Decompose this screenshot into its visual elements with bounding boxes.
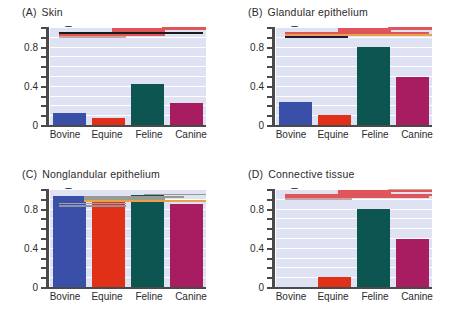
gridline [276, 228, 432, 229]
panel-a-title: (A)Skin [22, 6, 63, 18]
panel-d-title-text: Connective tissue [268, 168, 354, 180]
panel-b-plot-area: Malignant tumors (%) 00.40.8 BovineEquin… [276, 27, 432, 125]
panel-c-plot-area: Malignant tumors (%) 00.40.8 BovineEquin… [50, 189, 206, 287]
y-tick [41, 66, 47, 68]
panel-d-plot [276, 189, 432, 287]
bar-feline [357, 209, 390, 287]
bar-canine [170, 204, 203, 287]
panel-a: (A)Skin Malignant tumors (%) 00.40.8 Bov… [0, 0, 225, 162]
y-tick [267, 287, 273, 289]
annotation-line [59, 36, 127, 38]
panel-b: (B)Glandular epithelium Malignant tumors… [226, 0, 451, 162]
bar-equine [318, 115, 351, 125]
figure-four-panel-bar-charts: (A)Skin Malignant tumors (%) 00.40.8 Bov… [0, 0, 451, 324]
y-tick-label: 0 [258, 120, 264, 131]
y-tick [41, 105, 47, 107]
y-tick [267, 56, 273, 58]
panel-b-x-labels: BovineEquineFelineCanine [270, 129, 438, 140]
x-tick-label: Feline [354, 129, 396, 140]
annotation-line [285, 36, 348, 38]
annotation-line [59, 203, 127, 205]
y-tick-label: 0.8 [250, 203, 264, 214]
y-tick-label: 0 [32, 282, 38, 293]
annotation-line [285, 34, 432, 36]
panel-b-title-text: Glandular epithelium [268, 6, 368, 18]
annotation-line [285, 32, 429, 34]
annotation-line [84, 198, 165, 200]
panel-a-x-axis [46, 125, 206, 127]
bar-equine [318, 277, 351, 287]
x-tick-label: Feline [128, 129, 170, 140]
gridline [276, 209, 432, 210]
bar-feline [131, 195, 164, 287]
x-tick-label: Feline [128, 291, 170, 302]
bar-canine [396, 77, 429, 125]
panel-c: (C)Nonglandular epithelium Malignant tum… [0, 162, 225, 324]
x-tick-label: Bovine [44, 129, 86, 140]
annotation-line [338, 30, 391, 32]
annotation-line [388, 189, 432, 190]
bar-equine [92, 199, 125, 287]
y-tick [267, 66, 273, 68]
gridline [50, 76, 206, 77]
y-tick [41, 115, 47, 117]
panel-b-tag: (B) [248, 6, 263, 18]
bar-bovine [53, 113, 86, 125]
y-tick [267, 199, 273, 201]
annotation-line [285, 196, 429, 198]
y-tick [41, 56, 47, 58]
y-tick [41, 189, 47, 191]
gridline [276, 56, 432, 57]
gridline [276, 47, 432, 48]
x-tick-label: Canine [396, 129, 438, 140]
annotation-line [84, 200, 206, 202]
y-tick-label: 0.8 [24, 41, 38, 52]
y-tick [41, 258, 47, 260]
panel-d-x-labels: BovineEquineFelineCanine [270, 291, 438, 302]
y-tick [41, 47, 47, 49]
y-tick [41, 96, 47, 98]
y-tick [41, 27, 47, 29]
y-tick [267, 228, 273, 230]
y-tick [41, 37, 47, 39]
x-tick-label: Equine [86, 129, 128, 140]
x-tick-label: Equine [312, 129, 354, 140]
panel-d-tag: (D) [248, 168, 263, 180]
y-tick [41, 218, 47, 220]
x-tick-label: Equine [312, 291, 354, 302]
y-tick [41, 277, 47, 279]
y-tick-label: 0.8 [24, 203, 38, 214]
panel-b-plot [276, 27, 432, 125]
y-tick [267, 86, 273, 88]
gridline [50, 66, 206, 67]
x-tick-label: Bovine [44, 291, 86, 302]
x-tick-label: Feline [354, 291, 396, 302]
annotation-line [162, 27, 206, 28]
x-tick-label: Equine [86, 291, 128, 302]
y-tick-label: 0.4 [250, 80, 264, 91]
annotation-line [338, 28, 432, 30]
y-tick [41, 199, 47, 201]
panel-d: (D)Connective tissue Malignant tumors (%… [226, 162, 451, 324]
panel-b-x-axis [272, 125, 432, 127]
annotation-line [388, 27, 432, 28]
y-tick [267, 96, 273, 98]
y-tick [267, 248, 273, 250]
bar-bovine [279, 102, 312, 125]
annotation-line [112, 30, 165, 32]
y-tick-label: 0.4 [24, 242, 38, 253]
y-tick [41, 125, 47, 127]
y-tick [267, 238, 273, 240]
annotation-line [112, 28, 206, 30]
y-tick-label: 0.4 [250, 242, 264, 253]
bar-feline [131, 84, 164, 125]
y-tick-label: 0.8 [250, 41, 264, 52]
gridline [50, 189, 206, 190]
y-tick [41, 209, 47, 211]
annotation-line [59, 205, 127, 207]
annotation-line [59, 32, 203, 34]
y-tick [267, 189, 273, 191]
y-tick [267, 267, 273, 269]
panel-d-bars [276, 189, 432, 287]
y-tick [41, 76, 47, 78]
